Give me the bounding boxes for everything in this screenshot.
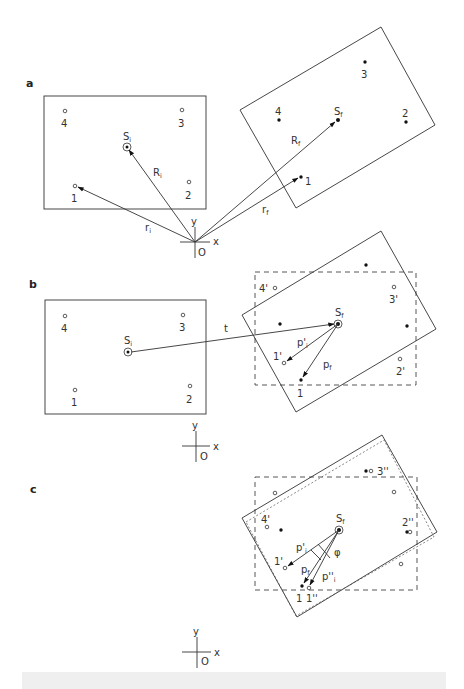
caption-bar <box>22 672 446 689</box>
vector-p-prime-i-label: p'i <box>296 542 307 555</box>
caption-text <box>22 681 446 689</box>
panel-a: a 4 3 2 1 Si 3 4 2 1 Sf Ri Rf ri rf <box>26 27 435 258</box>
vector-p-double-prime-i-label: p''i <box>322 571 336 584</box>
final-point-3 <box>364 263 367 266</box>
origin-label: O <box>200 451 208 462</box>
vector-R-i-label: Ri <box>153 167 162 180</box>
y-axis-label: y <box>192 420 198 431</box>
centroid-final-label: Sf <box>334 106 343 119</box>
vector-p-f-label: pf <box>301 564 310 577</box>
initial-point-2-label: 2 <box>185 190 191 201</box>
translated-point-4 <box>273 286 277 290</box>
centroid-initial-dot <box>127 351 130 354</box>
x-axis-label: x <box>214 647 220 658</box>
final-point-1 <box>299 378 302 381</box>
translated-point-4-top <box>273 491 277 495</box>
final-point-1-label: 1 <box>296 593 302 604</box>
vector-r-i-label: ri <box>145 222 151 235</box>
rotated-point-2 <box>408 530 412 534</box>
panel-label-a: a <box>26 77 33 90</box>
rotated-point-1 <box>307 586 311 590</box>
rotated-point-4 <box>265 525 269 529</box>
y-axis-label: y <box>191 216 197 227</box>
figure-canvas: a 4 3 2 1 Si 3 4 2 1 Sf Ri Rf ri rf <box>0 0 464 689</box>
translated-point-1 <box>282 361 286 365</box>
vector-r-f-label: rf <box>262 204 269 217</box>
final-point-1-label: 1 <box>297 388 303 399</box>
centroid-initial-dot <box>126 146 129 149</box>
initial-point-3 <box>180 108 184 112</box>
rotated-point-3-label: 3'' <box>377 466 389 477</box>
x-axis-label: x <box>213 441 219 452</box>
translated-point-3 <box>392 285 396 289</box>
initial-point-2 <box>187 180 191 184</box>
translated-body-rect <box>255 477 417 590</box>
x-axis-label: x <box>213 236 219 247</box>
initial-point-2 <box>188 384 192 388</box>
initial-point-3 <box>181 313 185 317</box>
final-point-2-label: 2 <box>402 108 408 119</box>
initial-point-4-label: 4 <box>61 323 67 334</box>
centroid-initial-label: Si <box>124 335 132 348</box>
translated-point-3-label: 3' <box>389 294 398 305</box>
vector-p-f <box>303 324 338 377</box>
final-point-3-label: 3 <box>361 69 367 80</box>
origin-label: O <box>201 656 209 667</box>
final-point-2 <box>405 324 408 327</box>
translated-point-2-label: 2' <box>396 366 405 377</box>
final-point-1-label: 1 <box>305 176 311 187</box>
rotated-point-3 <box>369 469 373 473</box>
translated-point-2 <box>398 357 402 361</box>
final-point-3 <box>363 60 366 63</box>
rotated-point-1-label: 1'' <box>306 593 318 604</box>
initial-point-2-label: 2 <box>186 394 192 405</box>
initial-body-rect <box>44 96 206 209</box>
translated-point-1-label: 1' <box>273 351 282 362</box>
initial-body-rect <box>45 300 206 414</box>
final-point-1 <box>300 584 303 587</box>
origin-label: O <box>198 247 206 258</box>
final-point-3 <box>364 469 367 472</box>
vector-R-f-label: Rf <box>291 135 301 148</box>
translated-point-4-label: 4' <box>259 283 268 294</box>
translated-point-2 <box>399 562 403 566</box>
vector-r-i <box>78 187 195 242</box>
initial-point-1 <box>73 388 77 392</box>
initial-point-4-label: 4 <box>61 118 67 129</box>
initial-point-4 <box>63 109 67 113</box>
translated-point-1 <box>283 566 287 570</box>
vector-R-f <box>195 122 335 242</box>
final-point-4 <box>279 528 282 531</box>
y-axis-label: y <box>193 626 199 637</box>
vector-p-f-label: pf <box>323 359 332 372</box>
centroid-final-label: Sf <box>336 513 345 526</box>
rotated-point-2-label: 2'' <box>402 517 414 528</box>
translation-label: t <box>224 323 228 334</box>
vector-p-prime-i-label: p'i <box>297 337 308 350</box>
panel-c: c 4' 3'' 2'' Sf 1' 1 1'' φ p'i pf p''i <box>30 435 437 668</box>
final-point-2 <box>404 120 407 123</box>
final-point-4-label: 4 <box>275 106 281 117</box>
translated-point-4-label: 4' <box>261 514 270 525</box>
translated-point-3 <box>392 490 396 494</box>
panel-label-c: c <box>30 483 37 496</box>
translated-point-1-label: 1' <box>274 556 283 567</box>
initial-point-3-label: 3 <box>179 322 185 333</box>
final-point-1 <box>299 175 302 178</box>
initial-point-3-label: 3 <box>178 118 184 129</box>
panel-b: b 4 3 1 2 Si t 4' 3' 1' 2' 1 Sf <box>29 231 436 462</box>
panel-label-b: b <box>29 278 37 291</box>
initial-point-1-label: 1 <box>71 193 77 204</box>
centroid-initial-label: Si <box>123 131 131 144</box>
final-point-4 <box>277 118 280 121</box>
initial-point-4 <box>63 314 67 318</box>
vector-r-f <box>195 178 298 242</box>
angle-label-phi: φ <box>334 547 341 558</box>
initial-point-1-label: 1 <box>71 397 77 408</box>
initial-point-1 <box>73 184 77 188</box>
centroid-final-label: Sf <box>335 307 344 320</box>
final-point-4 <box>278 322 281 325</box>
